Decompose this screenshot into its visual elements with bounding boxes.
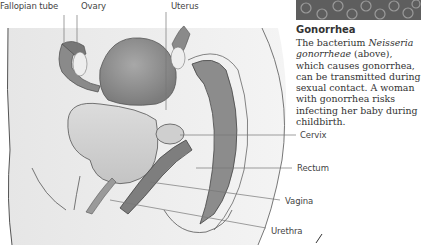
label-vagina: Vagina <box>285 196 313 206</box>
page-mark <box>316 234 322 243</box>
label-uterus: Uterus <box>171 1 199 11</box>
caption-text: The bacterium <box>296 37 368 48</box>
micrograph-image <box>296 0 421 20</box>
label-fallopian-tube: Fallopian tube <box>0 1 58 11</box>
ovary <box>73 52 87 76</box>
label-cervix: Cervix <box>300 130 326 140</box>
label-rectum: Rectum <box>297 163 329 173</box>
label-urethra: Urethra <box>271 226 302 236</box>
label-ovary: Ovary <box>81 1 106 11</box>
caption-text-cont: (above), which causes gonorrhea, can be … <box>296 48 421 127</box>
cervix <box>156 124 184 144</box>
caption-title: Gonorrhea <box>296 24 356 35</box>
caption-body: The bacterium Neisseria gonorrheae (abov… <box>296 37 421 127</box>
